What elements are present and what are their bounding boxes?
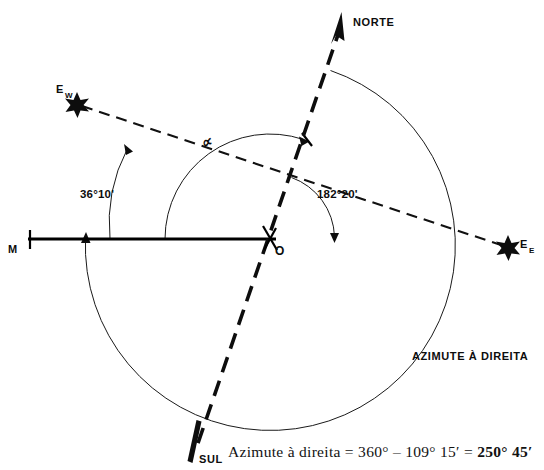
outer-arc-label: AZIMUTE À DIREITA — [412, 350, 528, 362]
alpha-label: ∝ — [198, 132, 215, 151]
star-east-label: E E — [520, 238, 535, 255]
origin-label: O — [275, 244, 284, 258]
svg-text:E: E — [520, 238, 528, 250]
star-west-label: E W — [56, 83, 73, 100]
star-line-west-east — [82, 106, 504, 246]
caption-result: 250° 45′ — [477, 443, 533, 460]
meridian-label: M — [8, 243, 18, 255]
star-east-icon — [496, 235, 520, 261]
caption: Azimute à direita = 360° – 109° 15′ = 25… — [228, 443, 533, 461]
angle-west-label: 36°10' — [80, 188, 114, 200]
south-label: SUL — [199, 453, 223, 465]
north-label: NORTE — [353, 16, 395, 28]
svg-text:W: W — [65, 91, 73, 100]
angle-north-label: 182°20' — [317, 188, 358, 200]
arc-182-20-arrowhead — [330, 233, 339, 243]
caption-prefix: Azimute à direita = 360° – 109° 15′ = — [228, 443, 477, 460]
svg-text:E: E — [56, 83, 64, 95]
svg-text:E: E — [529, 246, 535, 255]
azimuth-diagram: NORTE SUL M O E W E E 36°10' 182°20' ∝ A… — [0, 0, 544, 470]
arc-alpha — [165, 134, 304, 239]
arc-182-20 — [292, 178, 335, 237]
